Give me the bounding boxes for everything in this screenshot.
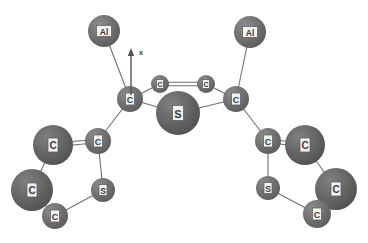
atom-c-ring-top-right[interactable]: C [197, 75, 215, 93]
atom-al-left[interactable]: Al [88, 15, 120, 47]
atom-label-text: C [233, 95, 240, 105]
atom-c-right-alpha[interactable]: C [285, 125, 325, 165]
atom-c-left-alpha[interactable]: C [33, 125, 73, 165]
atom-label-text: S [100, 186, 106, 196]
atom-label-text: Al [100, 27, 109, 37]
atom-label-text: C [52, 212, 59, 222]
atom-label-text: C [28, 185, 35, 196]
atom-label-text: S [265, 184, 271, 194]
atom-label-text: C [49, 140, 56, 151]
atoms-layer: AlAlCCCCSCCCCSCCCCS [11, 15, 357, 229]
atom-label-text: C [301, 140, 308, 151]
atom-label-text: C [95, 137, 102, 147]
axis-label: x [139, 49, 143, 56]
atom-label-text: C [265, 137, 272, 147]
axis-arrow-head-icon [128, 48, 134, 56]
atom-label-text: C [332, 184, 339, 195]
atom-c-left-beta[interactable]: C [85, 128, 111, 154]
atom-label-text: Al [246, 28, 255, 38]
atom-label-text: C [157, 81, 162, 88]
atom-c-left-delta[interactable]: C [42, 203, 68, 229]
atom-label-text: C [203, 81, 208, 88]
atom-label-text: S [174, 108, 181, 120]
atom-s-right[interactable]: S [256, 176, 280, 200]
atom-label-text: C [314, 210, 321, 220]
atom-c-ring-top-left[interactable]: C [151, 75, 169, 93]
atom-al-right[interactable]: Al [234, 16, 266, 48]
atom-s-center[interactable]: S [156, 91, 200, 135]
atom-label-text: C [127, 95, 134, 105]
molecule-figure: AlAlCCCCSCCCCSCCCCS x [0, 0, 368, 243]
atom-c-left-gamma[interactable]: C [11, 169, 53, 211]
molecule-canvas: AlAlCCCCSCCCCSCCCCS x [0, 0, 368, 243]
atom-s-left[interactable]: S [91, 178, 115, 202]
atom-c-core-left[interactable]: C [117, 86, 143, 112]
atom-c-core-right[interactable]: C [223, 86, 249, 112]
atom-c-right-delta[interactable]: C [303, 200, 331, 228]
atom-c-right-beta[interactable]: C [255, 128, 281, 154]
